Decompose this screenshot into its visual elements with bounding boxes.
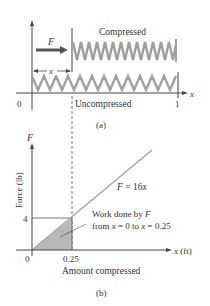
tick-025: 0.25 (63, 254, 79, 264)
x-right-arrow-icon (66, 69, 71, 73)
spring-work-figure: x F x Compressed Uncompressed 0 1 (a) (0, 0, 210, 306)
force-label: F (47, 36, 55, 47)
caption-a: (a) (96, 120, 106, 130)
uncompressed-spring (32, 76, 176, 90)
uncompressed-label: Uncompressed (75, 99, 132, 109)
x-axis-title-b: x (ft) (173, 246, 192, 256)
x-left-arrow-icon (33, 69, 38, 73)
equation-label: F = 16x (116, 182, 147, 192)
y-axis-arrow-icon (30, 143, 34, 149)
tick-0-b: 0 (25, 254, 30, 264)
wall-arrow-icon (30, 20, 34, 26)
force-line (32, 150, 152, 250)
figure-b: F Force (lb) 4 0 0.25 x (ft) Amount comp… (14, 132, 192, 298)
force-arrow-icon (60, 46, 68, 54)
tick-1-a: 1 (175, 99, 180, 109)
tick-0-a: 0 (17, 99, 22, 109)
y-axis-var: F (26, 132, 34, 143)
annotation-line-2: from x = 0 to x = 0.25 (92, 221, 171, 231)
y-axis-title: Force (lb) (14, 172, 24, 208)
annotation-line-1: Work done by F (92, 209, 151, 219)
x-axis-b-arrow-icon (166, 248, 172, 252)
compressed-spring (73, 42, 176, 60)
figure-a: x F x Compressed Uncompressed 0 1 (a) (16, 20, 194, 130)
x-axis-label-a: x (189, 89, 194, 99)
caption-b: (b) (96, 288, 107, 298)
x-axis-arrow-icon (182, 91, 188, 95)
x-displacement-label: x (48, 66, 53, 76)
tick-4: 4 (23, 214, 28, 224)
x-axis-subtitle: Amount compressed (62, 266, 141, 276)
compressed-label: Compressed (99, 27, 146, 37)
